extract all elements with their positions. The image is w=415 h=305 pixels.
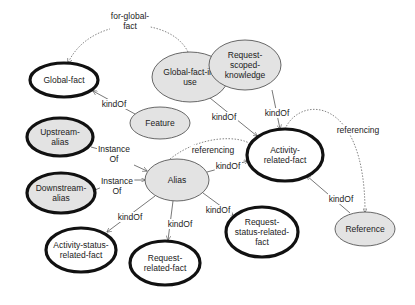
concept-diagram: Global-factGlobal-fact-in-useRequest-sco… (0, 0, 415, 305)
node-label: Reference (345, 224, 384, 234)
node-request-related-fact: Request-related-fact (130, 241, 200, 285)
node-feature: Feature (130, 107, 190, 139)
edge-label: kindOf (102, 99, 127, 109)
nodes-layer: Global-factGlobal-fact-in-useRequest-sco… (27, 40, 395, 285)
node-label: Request-scoped-knowledge (225, 50, 266, 80)
node-label: Activity-status-related-fact (53, 240, 108, 260)
edge-label: kindOf (265, 108, 290, 118)
node-activity-related-fact: Activity-related-fact (247, 129, 323, 181)
node-upstream-alias: Upstream-alias (27, 118, 93, 156)
edge-label: kindOf (118, 212, 143, 222)
node-global-fact: Global-fact (30, 63, 98, 97)
node-label: Alias (168, 175, 186, 185)
edge-label: kindOf (168, 219, 193, 229)
node-request-status-related-fact: Request-status-related-fact (226, 207, 298, 257)
edge-label: kindOf (329, 194, 354, 204)
edge-label: referencing (337, 125, 380, 135)
node-label: Feature (145, 118, 175, 128)
node-label: Global-fact (43, 75, 85, 85)
node-request-scoped-knowledge: Request-scoped-knowledge (209, 40, 281, 90)
node-downstream-alias: Downstream-alias (27, 173, 95, 213)
edge-label: kindOf (206, 205, 231, 215)
edge-label: referencing (192, 145, 235, 155)
node-alias: Alias (145, 159, 209, 201)
edge-label: kindOf (216, 161, 241, 171)
node-reference: Reference (335, 212, 395, 246)
node-label: Request-related-fact (144, 253, 187, 273)
edge-label: kindOf (212, 112, 237, 122)
node-activity-status-related-fact: Activity-status-related-fact (46, 228, 116, 272)
